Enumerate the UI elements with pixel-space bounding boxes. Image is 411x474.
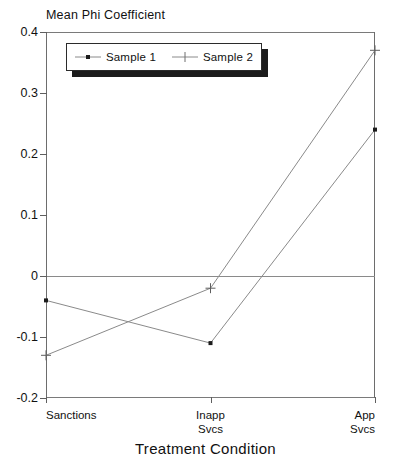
- x-tick-label: AppSvcs: [350, 408, 375, 436]
- legend-item-sample-2: Sample 2: [172, 51, 253, 63]
- legend: Sample 1 Sample 2: [66, 43, 262, 71]
- series-line-1: [46, 130, 375, 344]
- series-line-2: [46, 50, 375, 355]
- x-axis-title: Treatment Condition: [0, 440, 411, 457]
- data-point-plus: [370, 45, 380, 55]
- data-point-square: [209, 341, 213, 345]
- data-point-square: [44, 298, 48, 302]
- y-axis-title: Mean Phi Coefficient: [46, 8, 165, 22]
- x-tick: [375, 397, 376, 403]
- y-tick-label: 0: [31, 270, 38, 283]
- y-tick-label: 0.1: [21, 209, 38, 222]
- data-point-square: [373, 128, 377, 132]
- line-marker-square-icon: [75, 52, 101, 62]
- line-chart: Mean Phi Coefficient 0.40.30.20.10-0.1-0…: [0, 0, 411, 474]
- data-series-layer: [46, 32, 375, 398]
- y-tick-label: 0.2: [21, 148, 38, 161]
- y-tick-label: 0.3: [21, 87, 38, 100]
- data-point-plus: [41, 350, 51, 360]
- legend-box: Sample 1 Sample 2: [66, 43, 262, 71]
- data-point-plus: [206, 283, 216, 293]
- plot-area: 0.40.30.20.10-0.1-0.2 SanctionsInappSvcs…: [46, 32, 375, 398]
- legend-label-sample-1: Sample 1: [106, 51, 156, 63]
- y-tick-label: 0.4: [21, 26, 38, 39]
- x-tick-label: InappSvcs: [196, 408, 225, 436]
- legend-item-sample-1: Sample 1: [75, 51, 156, 63]
- y-tick-label: -0.2: [16, 392, 38, 405]
- y-tick-label: -0.1: [16, 331, 38, 344]
- line-marker-plus-icon: [172, 51, 198, 63]
- legend-label-sample-2: Sample 2: [203, 51, 253, 63]
- x-tick-label: Sanctions: [46, 408, 97, 422]
